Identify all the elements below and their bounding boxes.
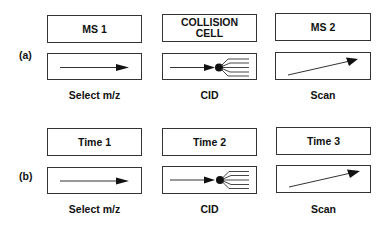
fragmentation-icon [170,172,249,189]
straight-arrow-icon [60,178,129,185]
diagonal-arrow-icon [288,58,358,76]
fragmentation-icon [170,59,249,76]
diagram-arrows [0,0,392,225]
diagonal-arrow-icon [289,170,360,188]
straight-arrow-icon [60,64,129,71]
